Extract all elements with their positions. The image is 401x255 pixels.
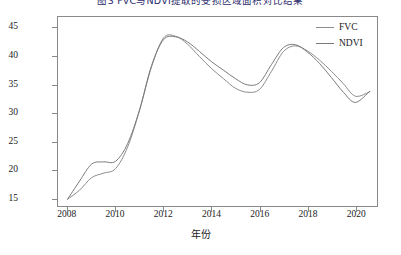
legend-entry-ndvi[interactable]: NDVI bbox=[316, 38, 363, 49]
x-tick-mark bbox=[115, 207, 116, 212]
y-tick-label: 45 bbox=[0, 23, 18, 33]
legend-line-swatch bbox=[316, 27, 334, 28]
y-tick-label: 25 bbox=[0, 137, 18, 147]
chart-title: 图3 FVC与NDVI提取的受损区域面积对比结果 bbox=[0, 0, 401, 7]
y-tick-label: 30 bbox=[0, 108, 18, 118]
x-tick-mark bbox=[67, 207, 68, 212]
x-axis-title: 年份 bbox=[0, 226, 401, 241]
x-tick-mark bbox=[308, 207, 309, 212]
legend-entry-fvc[interactable]: FVC bbox=[316, 22, 363, 33]
x-tick-mark bbox=[211, 207, 212, 212]
legend-label: NDVI bbox=[339, 39, 363, 49]
series-line-fvc bbox=[68, 35, 370, 199]
y-tick-label: 20 bbox=[0, 166, 18, 176]
chart-legend: FVCNDVI bbox=[316, 22, 363, 49]
y-tick-label: 35 bbox=[0, 80, 18, 90]
legend-line-swatch bbox=[316, 43, 334, 44]
x-tick-mark bbox=[260, 207, 261, 212]
figure-container: 图3 FVC与NDVI提取的受损区域面积对比结果 FVC/NDVI提取的受损区域… bbox=[0, 0, 401, 255]
x-tick-mark bbox=[163, 207, 164, 212]
y-tick-label: 15 bbox=[0, 194, 18, 204]
x-tick-mark bbox=[356, 207, 357, 212]
y-tick-label: 40 bbox=[0, 51, 18, 61]
series-line-ndvi bbox=[68, 36, 370, 199]
legend-label: FVC bbox=[339, 23, 357, 33]
